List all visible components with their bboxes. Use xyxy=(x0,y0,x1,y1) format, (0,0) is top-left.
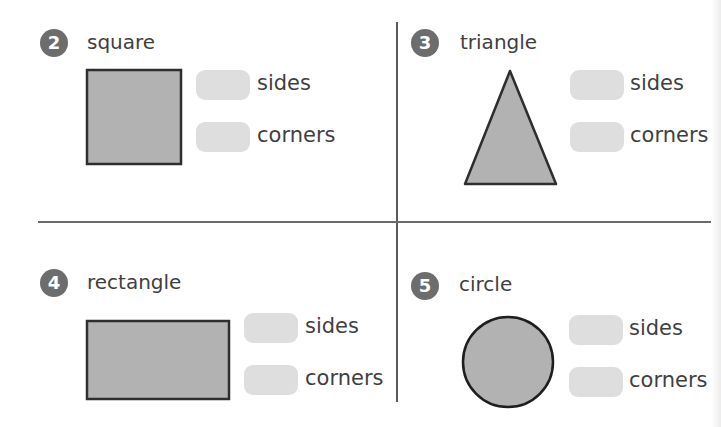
vertical-divider xyxy=(396,22,398,402)
sides-label: sides xyxy=(629,316,683,340)
sides-label: sides xyxy=(630,71,684,95)
sides-answer-box[interactable] xyxy=(570,70,624,100)
circle-shape xyxy=(460,314,556,410)
square-shape xyxy=(85,68,183,166)
question-number-badge: 2 xyxy=(40,29,68,57)
triangle-shape xyxy=(462,68,558,188)
horizontal-divider xyxy=(38,221,711,223)
shape-name: rectangle xyxy=(87,270,181,294)
corners-answer-box[interactable] xyxy=(570,122,624,152)
corners-label: corners xyxy=(305,366,383,390)
shape-name: circle xyxy=(459,272,512,296)
corners-answer-box[interactable] xyxy=(244,365,298,395)
rectangle-shape xyxy=(85,319,231,401)
corners-answer-box[interactable] xyxy=(569,367,623,397)
sides-answer-box[interactable] xyxy=(196,70,250,100)
corners-label: corners xyxy=(257,123,335,147)
sides-label: sides xyxy=(257,71,311,95)
shape-name: square xyxy=(87,30,155,54)
sides-label: sides xyxy=(305,314,359,338)
corners-label: corners xyxy=(630,123,708,147)
sides-answer-box[interactable] xyxy=(569,315,623,345)
page-edge-shadow xyxy=(711,0,721,427)
question-number-badge: 3 xyxy=(411,29,439,57)
question-number-badge: 4 xyxy=(40,269,68,297)
corners-label: corners xyxy=(629,368,707,392)
shape-name: triangle xyxy=(460,30,537,54)
corners-answer-box[interactable] xyxy=(196,122,250,152)
sides-answer-box[interactable] xyxy=(244,313,298,343)
question-number-badge: 5 xyxy=(411,272,439,300)
